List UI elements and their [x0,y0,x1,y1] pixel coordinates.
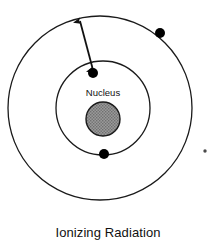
electron-inner-upper-left [88,68,98,78]
electron-inner-bottom [99,149,109,159]
atom-illustration: Nucleus [0,0,216,243]
electron-outer-upper-right [155,28,165,38]
nucleus-circle [86,102,120,136]
radiation-arrow [80,21,93,70]
ionizing-radiation-diagram: Nucleus Ionizing Radiation [0,0,216,243]
figure-caption: Ionizing Radiation [0,225,216,240]
electron-ejected [203,149,206,152]
nucleus-label: Nucleus [86,87,121,98]
